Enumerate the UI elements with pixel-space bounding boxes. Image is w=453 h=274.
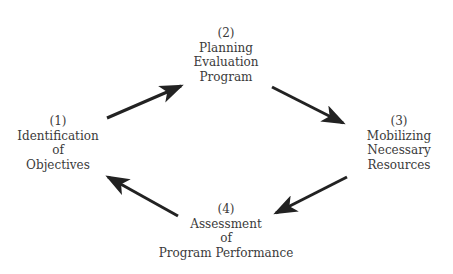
node-planning-evaluation-program: (2) Planning Evaluation Program <box>193 26 258 84</box>
arrow-2-to-3 <box>272 87 343 123</box>
node-label-line: Identification <box>17 129 98 144</box>
node-assessment-of-program-performance: (4) Assessment of Program Performance <box>159 202 294 260</box>
node-label-line: Planning <box>193 41 258 56</box>
node-identification-of-objectives: (1) Identification of Objectives <box>17 114 98 172</box>
node-label-line: Necessary <box>367 143 431 158</box>
node-number: (1) <box>17 114 98 129</box>
node-number: (3) <box>367 114 431 129</box>
node-label-line: Evaluation <box>193 55 258 70</box>
node-label-line: of <box>159 231 294 246</box>
node-label-line: Program <box>193 70 258 85</box>
node-label-line: Objectives <box>17 158 98 173</box>
node-label-line: of <box>17 143 98 158</box>
node-label-line: Mobilizing <box>367 129 431 144</box>
node-label-line: Resources <box>367 158 431 173</box>
node-number: (4) <box>159 202 294 217</box>
node-mobilizing-necessary-resources: (3) Mobilizing Necessary Resources <box>367 114 431 172</box>
arrow-1-to-2 <box>107 86 181 118</box>
node-label-line: Program Performance <box>159 246 294 261</box>
node-label-line: Assessment <box>159 217 294 232</box>
node-number: (2) <box>193 26 258 41</box>
